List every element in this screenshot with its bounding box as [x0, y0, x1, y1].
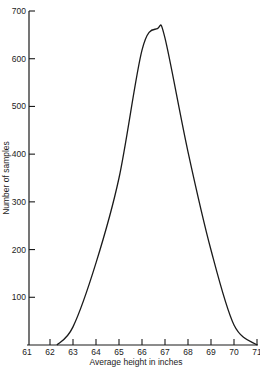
y-tick-label: 700	[12, 6, 26, 16]
bell-curve-chart: 100200300400500600700 Number of samples …	[0, 0, 260, 371]
x-tick-label: 62	[45, 347, 55, 357]
x-tick-label: 61	[22, 347, 32, 357]
y-tick-label: 300	[12, 197, 26, 207]
y-tick-label: 400	[12, 149, 26, 159]
x-axis: 6162636465666768697071 Average height in…	[22, 339, 260, 367]
x-tick-label: 67	[160, 347, 170, 357]
y-axis-ticks: 100200300400500600700	[12, 6, 35, 302]
y-axis-title: Number of samples	[1, 141, 11, 215]
x-tick-label: 69	[206, 347, 216, 357]
y-axis: 100200300400500600700 Number of samples	[1, 6, 35, 345]
distribution-curve	[57, 25, 257, 345]
y-tick-label: 500	[12, 101, 26, 111]
x-tick-label: 70	[229, 347, 239, 357]
y-tick-label: 200	[12, 245, 26, 255]
y-tick-label: 600	[12, 54, 26, 64]
x-tick-label: 71	[252, 347, 260, 357]
x-tick-label: 68	[183, 347, 193, 357]
x-tick-label: 63	[68, 347, 78, 357]
x-tick-label: 66	[137, 347, 147, 357]
x-axis-title: Average height in inches	[90, 357, 183, 367]
x-tick-label: 64	[91, 347, 101, 357]
x-axis-ticks: 6162636465666768697071	[22, 339, 260, 357]
x-tick-label: 65	[114, 347, 124, 357]
y-tick-label: 100	[12, 292, 26, 302]
